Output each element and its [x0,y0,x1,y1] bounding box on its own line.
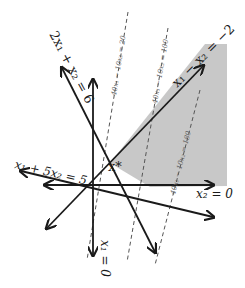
label-optimal-point: x* [108,159,122,174]
feasible-region [110,44,227,187]
label-x2-zero: x₂ = 0 [196,187,233,201]
label-objective-20: 40x₁ − 10x₂ = 20 [110,34,128,97]
label-x1-zero: x₁ = 0 [98,240,112,277]
label-x1-plus-5x2: x₁ + 5x₂ = 5 [13,157,88,187]
label-2x1-plus-x2: 2x₁ + x₂ = 6 [46,28,97,106]
lp-diagram: 2x₁ + x₂ = 6 x₁ − x₂ = −2 x₁ + 5x₂ = 5 x… [0,0,245,288]
